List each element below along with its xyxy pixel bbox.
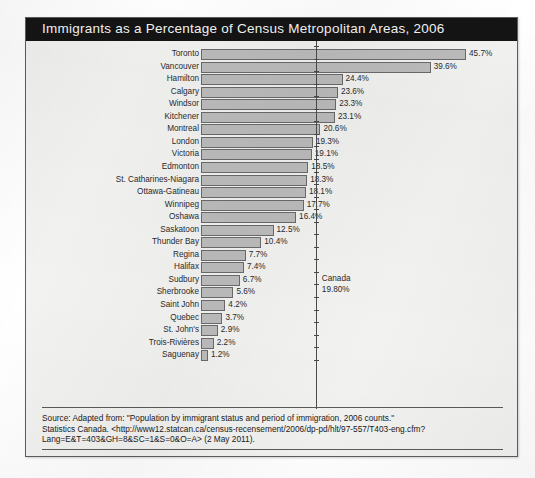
bar-row: London19.3% bbox=[26, 137, 517, 148]
reference-line-tick bbox=[314, 197, 319, 198]
reference-line-tick bbox=[314, 310, 319, 311]
bar-category-label: Trois-Rivières bbox=[49, 337, 199, 348]
bar bbox=[201, 149, 312, 160]
bar-value-label: 5.6% bbox=[236, 286, 255, 297]
bar bbox=[201, 313, 222, 324]
reference-line-tick bbox=[314, 234, 319, 235]
reference-line-tick bbox=[314, 134, 319, 135]
bar-row: Thunder Bay10.4% bbox=[26, 237, 517, 248]
bar-value-label: 18.5% bbox=[311, 161, 334, 172]
bar-row: Sudbury6.7% bbox=[26, 275, 517, 286]
bar-row: Winnipeg17.7% bbox=[26, 200, 517, 211]
bar bbox=[201, 275, 240, 286]
bar bbox=[201, 250, 246, 261]
bar bbox=[201, 287, 233, 298]
bar-category-label: Sudbury bbox=[49, 274, 199, 285]
reference-line-tick bbox=[314, 172, 319, 173]
bar-row: Hamilton24.4% bbox=[26, 74, 517, 85]
bar-category-label: Calgary bbox=[49, 86, 199, 97]
figure-title: Immigrants as a Percentage of Census Met… bbox=[42, 21, 444, 36]
source-note: Source: Adapted from: "Population by imm… bbox=[26, 407, 517, 456]
bar bbox=[201, 200, 304, 211]
bar-category-label: London bbox=[49, 136, 199, 147]
bar-value-label: 2.9% bbox=[221, 324, 240, 335]
bar bbox=[201, 74, 343, 85]
bar-row: Edmonton18.5% bbox=[26, 162, 517, 173]
reference-line-tick bbox=[314, 335, 319, 336]
bar-value-label: 1.2% bbox=[211, 349, 230, 360]
bar-row: Montreal20.6% bbox=[26, 124, 517, 135]
reference-line-tick bbox=[314, 247, 319, 248]
source-divider-bottom bbox=[42, 449, 503, 450]
bar bbox=[201, 300, 225, 311]
bar-row: Kitchener23.1% bbox=[26, 112, 517, 123]
bar-row: Saskatoon12.5% bbox=[26, 225, 517, 236]
source-text: Source: Adapted from: "Population by imm… bbox=[42, 413, 510, 445]
reference-line-tick bbox=[314, 59, 319, 60]
bar-value-label: 10.4% bbox=[264, 236, 287, 247]
bar-row: St. John's2.9% bbox=[26, 325, 517, 336]
bar-row: Trois-Rivières2.2% bbox=[26, 338, 517, 349]
figure-panel: Immigrants as a Percentage of Census Met… bbox=[25, 17, 518, 457]
reference-line-tick bbox=[314, 146, 319, 147]
bar-value-label: 24.4% bbox=[346, 73, 369, 84]
reference-line-tick bbox=[314, 222, 319, 223]
bar bbox=[201, 124, 320, 135]
reference-line-tick bbox=[314, 259, 319, 260]
reference-line-tick bbox=[314, 347, 319, 348]
bar-value-label: 6.7% bbox=[243, 274, 262, 285]
bar-category-label: Sherbrooke bbox=[49, 286, 199, 297]
bar bbox=[201, 137, 313, 148]
bar-value-label: 3.7% bbox=[225, 312, 244, 323]
canada-reference-line bbox=[316, 41, 317, 409]
reference-line-tick bbox=[314, 209, 319, 210]
bar-value-label: 18.1% bbox=[309, 186, 332, 197]
reference-line-tick bbox=[314, 272, 319, 273]
bar-category-label: Halifax bbox=[49, 261, 199, 272]
bar bbox=[201, 338, 214, 349]
bar-row: Calgary23.6% bbox=[26, 87, 517, 98]
bar-category-label: Saskatoon bbox=[49, 224, 199, 235]
bar bbox=[201, 187, 306, 198]
bar-value-label: 45.7% bbox=[469, 48, 492, 59]
source-line-1: Source: Adapted from: "Population by imm… bbox=[42, 413, 510, 424]
bar-row: Toronto45.7% bbox=[26, 49, 517, 60]
bar-value-label: 19.1% bbox=[315, 148, 338, 159]
reference-line-tick bbox=[314, 360, 319, 361]
reference-line-tick bbox=[314, 322, 319, 323]
reference-line-tick bbox=[314, 297, 319, 298]
canada-annotation-value: 19.80% bbox=[322, 285, 350, 294]
bar-category-label: Vancouver bbox=[49, 61, 199, 72]
bar-value-label: 23.1% bbox=[338, 111, 361, 122]
bar bbox=[201, 225, 274, 236]
source-line-2: Statistics Canada. <http://www12.statcan… bbox=[42, 424, 510, 435]
bar bbox=[201, 162, 308, 173]
bar-category-label: Winnipeg bbox=[49, 199, 199, 210]
bar-category-label: Saint John bbox=[49, 299, 199, 310]
bar bbox=[201, 49, 466, 60]
reference-line-tick bbox=[314, 159, 319, 160]
bar-row: Vancouver39.6% bbox=[26, 62, 517, 73]
bar-row: Halifax7.4% bbox=[26, 262, 517, 273]
bar-value-label: 23.3% bbox=[339, 98, 362, 109]
bar-row: Quebec3.7% bbox=[26, 313, 517, 324]
reference-line-tick bbox=[314, 121, 319, 122]
bar bbox=[201, 350, 208, 361]
bar-row: Regina7.7% bbox=[26, 250, 517, 261]
bar-category-label: St. John's bbox=[49, 324, 199, 335]
bar-row: Saint John4.2% bbox=[26, 300, 517, 311]
bar-row: Saguenay1.2% bbox=[26, 350, 517, 361]
reference-line-tick bbox=[314, 96, 319, 97]
bar-value-label: 2.2% bbox=[217, 337, 236, 348]
canada-annotation-label: Canada bbox=[322, 274, 351, 283]
bar-category-label: Regina bbox=[49, 249, 199, 260]
bar-chart: Toronto45.7%Vancouver39.6%Hamilton24.4%C… bbox=[26, 41, 517, 409]
bar-category-label: Toronto bbox=[49, 48, 199, 59]
bar-category-label: Thunder Bay bbox=[49, 236, 199, 247]
bar-category-label: Oshawa bbox=[49, 211, 199, 222]
source-line-3: Lang=E&T=403&GH=8&SC=1&S=0&O=A> (2 May 2… bbox=[42, 434, 510, 445]
bar-row: Victoria19.1% bbox=[26, 149, 517, 160]
bar-value-label: 23.6% bbox=[341, 86, 364, 97]
bar-row: Windsor23.3% bbox=[26, 99, 517, 110]
reference-line-tick bbox=[314, 71, 319, 72]
